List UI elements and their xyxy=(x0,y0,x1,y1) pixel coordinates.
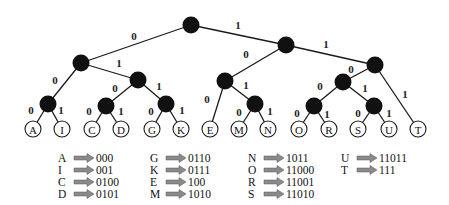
code-letter: E xyxy=(150,176,165,188)
code-value: 11011 xyxy=(379,152,407,164)
internal-node xyxy=(130,72,147,89)
edge-bit-label: 1 xyxy=(402,88,408,100)
edge-bit-label: 1 xyxy=(324,108,330,120)
code-value: 000 xyxy=(96,152,113,164)
internal-node xyxy=(158,96,175,113)
code-value: 0101 xyxy=(96,188,119,200)
internal-node xyxy=(40,96,57,113)
arrow-right-icon xyxy=(165,153,187,163)
leaf-label: G xyxy=(148,124,156,136)
internal-node xyxy=(367,57,384,74)
edge-bit-label: 0 xyxy=(131,30,137,42)
code-row-c: C0100 xyxy=(58,176,119,188)
code-row-d: D0101 xyxy=(58,188,119,200)
edge-bit-label: 0 xyxy=(148,105,154,117)
internal-node xyxy=(217,73,234,90)
edge-bit-label: 1 xyxy=(116,57,122,69)
leaf-label: I xyxy=(60,124,64,136)
leaf-node-n: N xyxy=(260,121,276,137)
leaf-label: A xyxy=(29,124,37,136)
arrow-right-icon xyxy=(263,153,285,163)
arrow-right-icon xyxy=(263,177,285,187)
edge-bit-label: 1 xyxy=(235,19,241,31)
edge-bit-label: 0 xyxy=(317,80,323,92)
code-row-u: U11011 xyxy=(341,152,407,164)
tree-edge xyxy=(286,45,375,65)
arrow-right-icon xyxy=(356,165,378,175)
edge-bit-label: 1 xyxy=(267,105,273,117)
leaf-label: C xyxy=(88,124,95,136)
code-row-o: O11000 xyxy=(248,164,314,176)
code-row-n: N1011 xyxy=(248,152,314,164)
edge-bit-label: 0 xyxy=(348,63,354,75)
edge-bit-label: 1 xyxy=(362,82,368,94)
code-row-k: K0111 xyxy=(150,164,211,176)
code-value: 001 xyxy=(96,164,113,176)
internal-node xyxy=(366,98,383,115)
leaf-label: M xyxy=(234,124,244,136)
internal-node xyxy=(247,96,264,113)
code-column: A000I001C0100D0101 xyxy=(58,152,119,200)
leaf-node-c: C xyxy=(84,121,100,137)
leaf-label: E xyxy=(207,124,214,136)
arrow-right-icon xyxy=(263,165,285,175)
code-value: 100 xyxy=(188,176,205,188)
tree-edge xyxy=(225,45,286,81)
code-letter: I xyxy=(58,164,73,176)
internal-node xyxy=(306,98,323,115)
leaf-label: O xyxy=(295,124,303,136)
leaf-node-m: M xyxy=(231,121,247,137)
edge-bit-label: 1 xyxy=(179,104,185,116)
arrow-right-icon xyxy=(73,177,95,187)
code-row-g: G0110 xyxy=(150,152,211,164)
code-value: 1010 xyxy=(188,188,211,200)
leaf-label: D xyxy=(117,124,125,136)
leaf-node-o: O xyxy=(291,121,307,137)
arrow-right-icon xyxy=(263,189,285,199)
leaf-label: U xyxy=(385,124,393,136)
code-letter: M xyxy=(150,188,165,200)
code-letter: O xyxy=(248,164,263,176)
tree-edge xyxy=(81,63,138,80)
leaf-label: S xyxy=(355,124,361,136)
arrow-right-icon xyxy=(165,165,187,175)
edge-bit-label: 0 xyxy=(86,105,92,117)
code-row-r: R11001 xyxy=(248,176,314,188)
edge-bit-label: 1 xyxy=(118,105,124,117)
edge-bit-label: 1 xyxy=(386,107,392,119)
code-letter: N xyxy=(248,152,263,164)
edge-bit-label: 0 xyxy=(52,74,58,86)
arrow-right-icon xyxy=(356,153,378,163)
edge-bit-label: 1 xyxy=(156,80,162,92)
huffman-tree: 01010101010101010101010101 AICDGKEMNORSU… xyxy=(0,0,449,145)
code-letter: T xyxy=(341,164,356,176)
code-letter: K xyxy=(150,164,165,176)
arrow-right-icon xyxy=(165,177,187,187)
code-letter: S xyxy=(248,188,263,200)
code-row-s: S11010 xyxy=(248,188,314,200)
code-value: 11010 xyxy=(286,188,314,200)
edge-bit-label: 1 xyxy=(243,79,249,91)
arrow-right-icon xyxy=(165,189,187,199)
code-value: 0111 xyxy=(188,164,210,176)
leaf-label: N xyxy=(264,124,272,136)
arrow-right-icon xyxy=(73,189,95,199)
code-column: U11011T111 xyxy=(341,152,407,176)
internal-node xyxy=(73,55,90,72)
leaf-node-s: S xyxy=(350,121,366,137)
leaf-node-d: D xyxy=(113,121,129,137)
edge-bit-label: 0 xyxy=(243,48,249,60)
code-row-e: E100 xyxy=(150,176,211,188)
leaf-node-a: A xyxy=(25,121,41,137)
edge-bit-label: 0 xyxy=(294,107,300,119)
internal-node xyxy=(183,17,200,34)
code-letter: R xyxy=(248,176,263,188)
leaf-node-k: K xyxy=(173,121,189,137)
code-letter: U xyxy=(341,152,356,164)
code-letter: C xyxy=(58,176,73,188)
code-value: 11000 xyxy=(286,164,314,176)
code-value: 1011 xyxy=(286,152,309,164)
code-value: 111 xyxy=(379,164,395,176)
leaf-label: K xyxy=(177,124,185,136)
leaf-label: T xyxy=(415,124,422,136)
